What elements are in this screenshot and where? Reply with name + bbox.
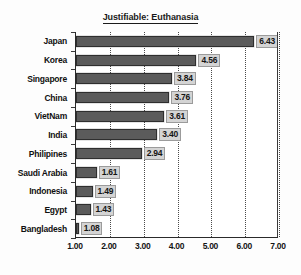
bar-value-label: 1.61 [99,166,121,179]
bar-value-label: 3.61 [166,110,188,123]
plot-right-border [277,32,278,237]
chart-title: Justifiable: Euthanasia [0,12,301,22]
bar-value-label: 1.49 [95,185,117,198]
bar-row: 4.56 [76,51,278,70]
x-axis-tick-label: 6.00 [236,241,251,251]
category-label: Singapore [0,69,71,88]
category-label: Philipines [0,144,71,163]
x-axis-tick-label: 5.00 [203,241,218,251]
bar-chart: Justifiable: Euthanasia JapanKoreaSingap… [0,0,301,275]
bar-row: 3.40 [76,126,278,145]
bar-row: 1.43 [76,201,278,220]
category-label: Saudi Arabia [0,163,71,182]
y-axis-tick [71,238,76,239]
x-axis-tick-label: 1.00 [67,241,82,251]
bar [76,129,157,140]
x-axis-labels: 1.002.003.004.005.006.007.00 [75,241,278,255]
x-axis-tick-label: 2.00 [101,241,116,251]
bar [76,223,79,234]
category-label: India [0,126,71,145]
category-axis: JapanKoreaSingaporeChinaVietNamIndiaPhil… [0,32,71,238]
bar-row: 3.76 [76,88,278,107]
category-label: Bangladesh [0,219,71,238]
bar [76,36,254,47]
bar [76,55,196,66]
bar-value-label: 2.94 [144,147,166,160]
bar-value-label: 1.43 [93,203,115,216]
category-label: VietNam [0,107,71,126]
bar-value-label: 3.76 [171,91,193,104]
plot-area: 6.434.563.843.763.613.402.941.611.491.43… [75,32,278,238]
chart-title-text: Justifiable: Euthanasia [103,12,199,24]
x-axis-tick-label: 4.00 [169,241,184,251]
x-axis-tick-label: 7.00 [270,241,285,251]
bar-series: 6.434.563.843.763.613.402.941.611.491.43… [76,32,278,237]
gridline [279,32,280,237]
category-label: Korea [0,51,71,70]
bar-value-label: 3.84 [174,72,196,85]
bar-row: 6.43 [76,32,278,51]
x-axis-tick-label: 3.00 [135,241,150,251]
bar [76,73,172,84]
bar-value-label: 6.43 [256,35,278,48]
bar-row: 2.94 [76,144,278,163]
bar-row: 1.61 [76,163,278,182]
category-label: China [0,88,71,107]
bar-value-label: 4.56 [198,54,220,67]
bar-row: 3.84 [76,69,278,88]
bar [76,148,142,159]
bar [76,204,91,215]
category-label: Japan [0,32,71,51]
bar [76,167,97,178]
bar-value-label: 1.08 [81,222,103,235]
category-label: Egypt [0,201,71,220]
bar-row: 1.08 [76,219,278,238]
bar [76,186,93,197]
bar [76,92,169,103]
category-label: Indonesia [0,182,71,201]
bar-row: 3.61 [76,107,278,126]
bar-row: 1.49 [76,182,278,201]
bar-value-label: 3.40 [159,128,181,141]
bar [76,111,164,122]
